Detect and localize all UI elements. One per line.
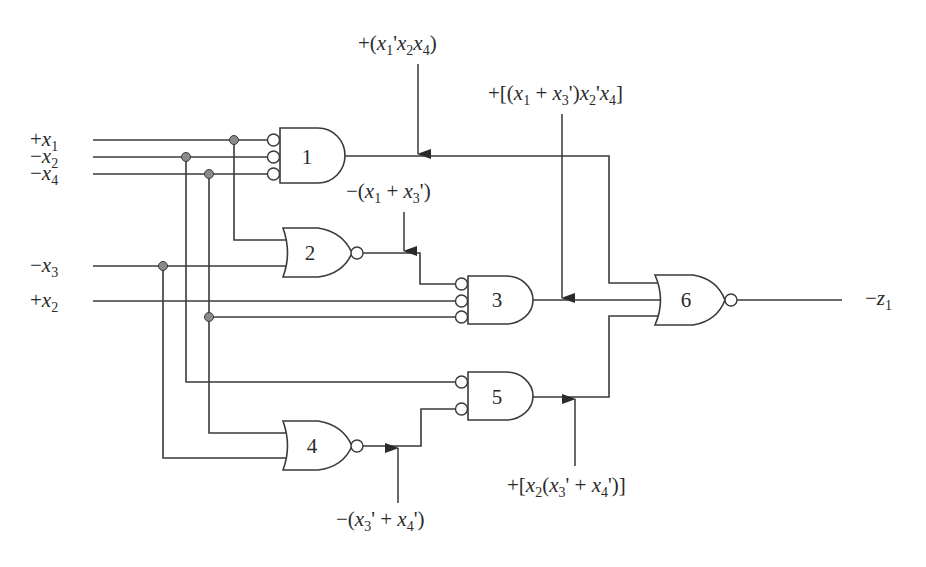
gate-label: 4 bbox=[307, 434, 318, 458]
gate-5-output-wire bbox=[533, 316, 660, 397]
annotation-g2-output: −(x1 + x3') bbox=[346, 179, 431, 206]
gate-label: 1 bbox=[302, 145, 313, 169]
output-label-z1: −z1 bbox=[865, 286, 892, 313]
gate-label: 2 bbox=[305, 241, 316, 265]
gate-1-output-wire bbox=[345, 156, 660, 283]
gate-2-output-wire bbox=[363, 253, 455, 284]
gate-5-and: 5 bbox=[456, 372, 534, 420]
gate-4-nor: 4 bbox=[283, 421, 363, 470]
junction-dot bbox=[205, 313, 214, 322]
junction-dot bbox=[205, 170, 214, 179]
gate-6-nor: 6 bbox=[655, 275, 737, 325]
input-label-x3: −x3 bbox=[30, 253, 58, 280]
logic-circuit-diagram: +x1 −x2 −x4 −x3 +x2 1 bbox=[0, 0, 926, 567]
annotation-g5-output: +[x2(x3' + x4')] bbox=[507, 473, 626, 500]
junctions bbox=[159, 136, 239, 322]
input-wires bbox=[93, 140, 455, 301]
gate-1-and: 1 bbox=[268, 128, 346, 183]
annotation-g3-output: +[(x1 + x3')x2'x4] bbox=[488, 81, 623, 108]
gate-2-nor: 2 bbox=[283, 228, 363, 277]
gate-4-output-wire bbox=[363, 409, 455, 446]
gate-3-and: 3 bbox=[456, 276, 534, 324]
gate-label: 3 bbox=[492, 288, 503, 312]
junction-dot bbox=[230, 136, 239, 145]
junction-dot bbox=[159, 262, 168, 271]
gate-label: 6 bbox=[681, 288, 692, 312]
annotation-g4-output: −(x3' + x4') bbox=[336, 507, 424, 534]
gate-label: 5 bbox=[492, 385, 503, 409]
junction-dot bbox=[182, 153, 191, 162]
annotation-g1-output: +(x1'x2x4) bbox=[358, 31, 437, 58]
input-label-x2-pos: +x2 bbox=[30, 288, 58, 315]
